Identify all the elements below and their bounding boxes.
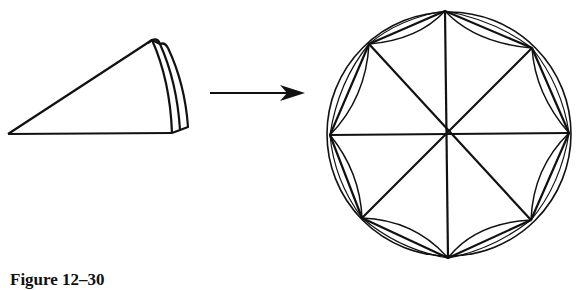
unfolded-circle [327,11,571,258]
figure-caption: Figure 12–30 [10,270,105,290]
wedge-layer-1 [152,40,172,133]
arrow [210,85,305,101]
wedge-bottom-edge [8,133,172,134]
folded-wedge [8,40,188,135]
wedge-top-edge [8,40,152,134]
